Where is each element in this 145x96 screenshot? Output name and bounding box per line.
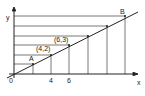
- origin-label: 0: [9, 77, 13, 84]
- point-label-4-2: (4,2): [36, 45, 50, 52]
- point-label-6-3: (6,3): [54, 36, 68, 43]
- x-axis-arrow-icon: [133, 72, 138, 75]
- point-label-b: B: [120, 8, 125, 15]
- point-label-a: A: [29, 55, 34, 62]
- coordinate-diagram: y x 0 4 6 A (4,2) (6,3) B: [0, 0, 145, 96]
- y-axis-arrow-icon: [12, 7, 15, 11]
- plot-points: [32, 15, 126, 65]
- x-axis-label: x: [137, 79, 141, 86]
- x-tick-label-6: 6: [67, 77, 71, 84]
- y-axis-label: y: [6, 14, 10, 21]
- x-tick-label-4: 4: [49, 77, 53, 84]
